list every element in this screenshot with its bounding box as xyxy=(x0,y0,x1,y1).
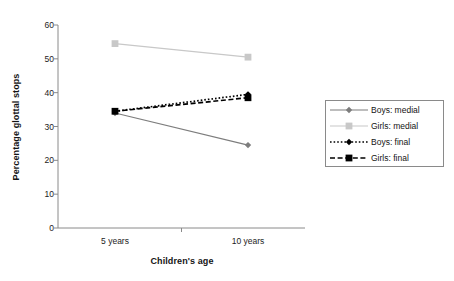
legend-label: Girls: final xyxy=(371,153,409,163)
series-line xyxy=(115,44,248,58)
data-point-marker xyxy=(346,139,352,145)
legend-swatch xyxy=(329,103,369,117)
series-boys-final xyxy=(112,91,251,114)
data-point-marker xyxy=(112,40,119,47)
data-point-marker xyxy=(245,54,252,61)
chart-legend: Boys: medialGirls: medialBoys: finalGirl… xyxy=(325,100,444,167)
chart-figure: Percentage glottal stops 0102030405060 5… xyxy=(0,0,454,281)
data-point-marker xyxy=(245,142,251,148)
legend-swatch xyxy=(329,135,369,149)
series-boys-medial xyxy=(112,110,251,149)
legend-item[interactable]: Boys: final xyxy=(326,134,443,150)
data-point-marker xyxy=(346,123,353,130)
data-point-marker xyxy=(245,94,252,101)
series-girls-medial xyxy=(112,40,252,60)
series-line xyxy=(115,113,248,145)
legend-label: Boys: final xyxy=(371,137,410,147)
legend-swatch xyxy=(329,151,369,165)
legend-label: Girls: medial xyxy=(371,121,418,131)
legend-item[interactable]: Girls: final xyxy=(326,150,443,166)
legend-item[interactable]: Boys: medial xyxy=(326,102,443,118)
legend-item[interactable]: Girls: medial xyxy=(326,118,443,134)
legend-swatch xyxy=(329,119,369,133)
data-point-marker xyxy=(346,155,353,162)
data-point-marker xyxy=(346,107,352,113)
legend-label: Boys: medial xyxy=(371,105,420,115)
data-point-marker xyxy=(112,108,119,115)
series-line xyxy=(115,98,248,112)
